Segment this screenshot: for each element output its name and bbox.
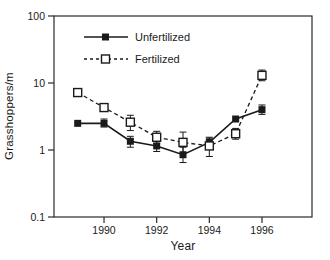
marker-open-square bbox=[74, 89, 82, 97]
marker-filled-square bbox=[127, 138, 134, 145]
y-tick-label: 100 bbox=[27, 10, 45, 22]
marker-filled-square bbox=[153, 142, 160, 149]
legend-label-unfertilized: Unfertilized bbox=[135, 31, 190, 43]
marker-open-square bbox=[179, 138, 187, 146]
marker-filled-square bbox=[74, 120, 81, 127]
marker-open-square bbox=[232, 130, 240, 138]
marker-open-square bbox=[258, 71, 266, 79]
legend-label-fertilized: Fertilized bbox=[135, 53, 180, 65]
marker-open-square bbox=[153, 133, 161, 141]
y-axis-label: Grasshoppers/m bbox=[1, 16, 16, 217]
marker-filled-square bbox=[101, 120, 108, 127]
marker-open-square bbox=[126, 118, 134, 126]
marker-open-square bbox=[100, 104, 108, 112]
y-tick-label: 10 bbox=[33, 77, 45, 89]
y-tick-label: 1 bbox=[39, 144, 45, 156]
legend: Unfertilized Fertilized bbox=[84, 31, 190, 65]
x-tick-label: 1992 bbox=[145, 224, 169, 236]
marker-filled-square bbox=[180, 151, 187, 158]
y-tick-label: 0.1 bbox=[30, 211, 45, 223]
legend-sample-solid-filled-square-icon bbox=[84, 31, 128, 43]
marker-filled-square bbox=[258, 106, 265, 113]
legend-item-fertilized: Fertilized bbox=[84, 53, 190, 65]
x-tick-label: 1990 bbox=[92, 224, 116, 236]
x-tick-label: 1996 bbox=[250, 224, 274, 236]
marker-filled-square bbox=[232, 116, 239, 123]
legend-sample-dashed-open-square-icon bbox=[84, 53, 128, 65]
legend-item-unfertilized: Unfertilized bbox=[84, 31, 190, 43]
x-axis-label: Year bbox=[54, 239, 312, 253]
marker-open-square bbox=[205, 142, 213, 150]
figure: 1001010.11990199219941996 Grasshoppers/m… bbox=[0, 0, 330, 260]
x-tick-label: 1994 bbox=[198, 224, 222, 236]
